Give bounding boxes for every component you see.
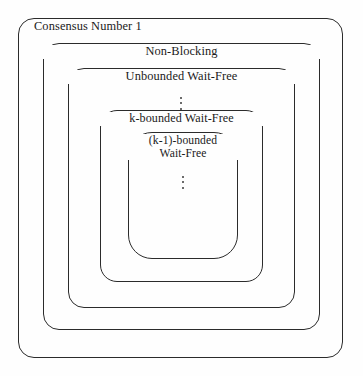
region-label-k-minus-1-bounded-wait-free: (k-1)-bounded Wait-Free xyxy=(128,134,238,160)
ellipsis-dot xyxy=(180,97,182,99)
ellipsis-dot xyxy=(182,176,184,178)
vertical-ellipsis-icon-inner xyxy=(176,172,190,189)
region-label-line-2: Wait-Free xyxy=(128,147,238,160)
region-label-consensus-number-1: Consensus Number 1 xyxy=(30,20,146,34)
region-label-line-1: (k-1)-bounded xyxy=(149,134,217,147)
ellipsis-dot xyxy=(180,102,182,104)
nested-containment-diagram: Consensus Number 1 Non-Blocking Unbounde… xyxy=(0,0,363,376)
region-label-unbounded-wait-free: Unbounded Wait-Free xyxy=(68,70,295,84)
ellipsis-dot xyxy=(182,181,184,183)
region-label-k-bounded-wait-free: k-bounded Wait-Free xyxy=(100,112,263,126)
vertical-ellipsis-icon-upper xyxy=(174,93,188,110)
ellipsis-dot xyxy=(182,187,184,189)
region-label-non-blocking: Non-Blocking xyxy=(43,45,320,59)
